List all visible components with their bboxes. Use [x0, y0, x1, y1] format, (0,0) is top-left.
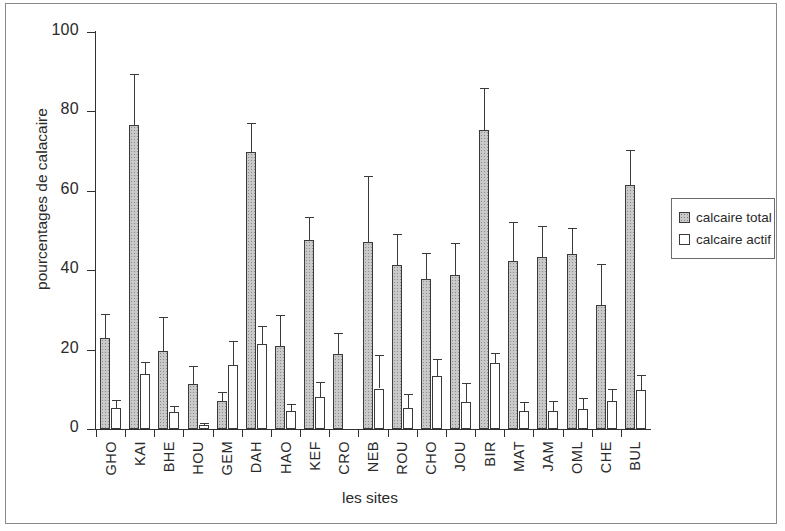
bar-gem-total — [217, 401, 227, 429]
bar-jam-total — [537, 257, 547, 429]
error-bar-stem — [583, 398, 584, 408]
error-bar-stem — [513, 222, 514, 262]
error-bar-stem — [222, 392, 223, 402]
plot-area — [96, 32, 650, 429]
error-bar-stem — [572, 228, 573, 254]
error-bar-stem — [408, 394, 409, 407]
bar-dah-total — [246, 152, 256, 429]
error-bar-stem — [397, 234, 398, 265]
error-bar-stem — [338, 333, 339, 354]
bar-che-actif — [607, 401, 617, 429]
x-tick-label: BHE — [161, 441, 177, 472]
error-bar-stem — [524, 402, 525, 412]
x-tick — [329, 430, 330, 437]
error-bar-cap — [159, 317, 168, 318]
bar-kai-total — [129, 125, 139, 429]
bar-jam-actif — [548, 411, 558, 429]
error-bar-cap — [597, 264, 606, 265]
y-tick — [87, 270, 95, 271]
x-tick-label: HAO — [278, 441, 294, 474]
error-bar-cap — [170, 406, 179, 407]
figure-page: pourcentages de calacaire les sites 0204… — [0, 0, 785, 531]
error-bar-stem — [612, 389, 613, 401]
error-bar-cap — [247, 123, 256, 124]
error-bar-stem — [495, 353, 496, 363]
x-tick — [271, 430, 272, 437]
error-bar-cap — [608, 389, 617, 390]
error-bar-stem — [641, 375, 642, 390]
error-bar-cap — [422, 253, 431, 254]
x-tick-label: GHO — [103, 441, 119, 476]
y-tick-label: 100 — [51, 21, 79, 39]
error-bar-cap — [637, 375, 646, 376]
error-bar-stem — [368, 176, 369, 242]
bar-hao-total — [275, 346, 285, 429]
bar-che-total — [596, 305, 606, 429]
x-tick-label: OML — [569, 441, 585, 474]
legend-swatch-actif — [679, 234, 690, 245]
error-bar-cap — [509, 222, 518, 223]
legend-label: calcaire actif — [696, 232, 771, 247]
legend-swatch-total — [679, 212, 690, 223]
bar-gem-actif — [228, 365, 238, 429]
error-bar-cap — [480, 88, 489, 89]
x-tick-label: MAT — [511, 441, 527, 472]
y-tick-label: 60 — [61, 180, 79, 198]
error-bar-cap — [433, 359, 442, 360]
legend-label: calcaire total — [696, 210, 772, 225]
bar-cho-actif — [432, 376, 442, 429]
error-bar-stem — [163, 317, 164, 351]
chart-legend: calcaire totalcalcaire actif — [671, 198, 775, 259]
error-bar-stem — [233, 341, 234, 365]
error-bar-stem — [145, 362, 146, 374]
x-axis-title: les sites — [0, 489, 740, 507]
x-tick-label: CRO — [336, 441, 352, 475]
error-bar-cap — [375, 355, 384, 356]
bar-mat-actif — [519, 411, 529, 429]
x-tick — [183, 430, 184, 437]
error-bar-stem — [262, 326, 263, 345]
error-bar-cap — [538, 226, 547, 227]
legend-item: calcaire actif — [679, 228, 767, 250]
error-bar-cap — [305, 217, 314, 218]
y-tick-label: 0 — [70, 418, 79, 436]
x-tick — [504, 430, 505, 437]
error-bar-cap — [364, 176, 373, 177]
x-tick — [388, 430, 389, 437]
x-tick-label: BIR — [482, 441, 498, 467]
x-tick — [213, 430, 214, 437]
bar-oml-total — [567, 254, 577, 429]
bar-hou-actif — [199, 425, 209, 429]
error-bar-cap — [200, 423, 209, 424]
error-bar-stem — [542, 226, 543, 258]
bar-rou-total — [392, 265, 402, 429]
error-bar-cap — [229, 341, 238, 342]
x-tick-label: NEB — [365, 441, 381, 472]
bar-jou-actif — [461, 402, 471, 429]
y-axis-title: pourcentages de calacaire — [33, 94, 51, 304]
x-tick-label: BUL — [627, 441, 643, 471]
bar-cho-total — [421, 279, 431, 429]
error-bar-cap — [549, 401, 558, 402]
error-bar-stem — [280, 315, 281, 347]
error-bar-stem — [553, 401, 554, 411]
bar-gho-actif — [111, 408, 121, 429]
y-tick — [87, 429, 95, 430]
error-bar-stem — [320, 382, 321, 397]
y-tick-label: 20 — [61, 339, 79, 357]
bar-neb-actif — [374, 389, 384, 429]
error-bar-cap — [316, 382, 325, 383]
x-tick — [154, 430, 155, 437]
error-bar-cap — [141, 362, 150, 363]
bar-bir-actif — [490, 363, 500, 429]
y-tick — [87, 350, 95, 351]
error-bar-cap — [218, 392, 227, 393]
error-bar-stem — [426, 253, 427, 279]
error-bar-cap — [189, 366, 198, 367]
error-bar-cap — [462, 383, 471, 384]
error-bar-cap — [287, 404, 296, 405]
x-tick — [446, 430, 447, 437]
error-bar-cap — [276, 315, 285, 316]
error-bar-stem — [116, 400, 117, 408]
x-tick-label: JAM — [540, 441, 556, 472]
